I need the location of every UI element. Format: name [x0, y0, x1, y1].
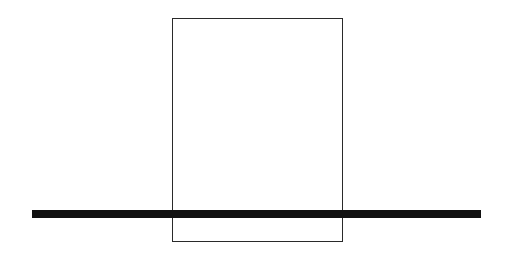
diagram-canvas: [0, 0, 508, 257]
horizontal-bar-line: [32, 210, 481, 218]
rectangle-shape: [172, 18, 343, 242]
